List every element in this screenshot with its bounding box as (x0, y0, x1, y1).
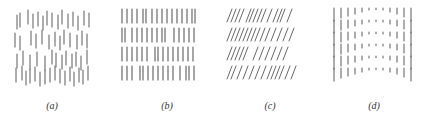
texture-pattern-d (320, 0, 425, 90)
texture-line (283, 47, 288, 60)
panel-caption-b: (b) (147, 100, 187, 111)
texture-line (287, 9, 292, 22)
texture-line (260, 28, 265, 41)
texture-line (289, 28, 294, 41)
panel-caption-a: (a) (32, 100, 72, 111)
texture-line (243, 66, 248, 79)
panel-caption-c: (c) (250, 100, 290, 111)
texture-pattern-c (215, 0, 320, 90)
texture-line (283, 28, 288, 41)
panel-b: (b) (110, 0, 215, 117)
texture-line (271, 28, 276, 41)
panel-c: (c) (215, 0, 320, 117)
texture-line (255, 66, 260, 79)
panel-a: (a) (0, 0, 110, 117)
texture-line (291, 66, 296, 79)
panel-caption-d: (d) (354, 100, 394, 111)
texture-line (265, 28, 270, 41)
texture-pattern-a (0, 0, 110, 90)
texture-line (267, 9, 272, 22)
texture-line (253, 47, 258, 60)
texture-line (249, 66, 254, 79)
panel-d: (d) (320, 0, 425, 117)
texture-line (285, 66, 290, 79)
texture-line (277, 47, 282, 60)
texture-line (265, 47, 270, 60)
texture-line (277, 28, 282, 41)
texture-line (261, 66, 266, 79)
texture-line (237, 66, 242, 79)
texture-line (271, 47, 276, 60)
texture-pattern-b (110, 0, 215, 90)
texture-line (259, 47, 264, 60)
